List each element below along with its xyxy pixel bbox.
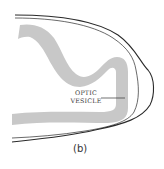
- optic-vesicle-diagram: OPTIC VESICLE (b): [0, 0, 164, 169]
- label-line-1: OPTIC: [70, 89, 102, 97]
- figure-caption: (b): [73, 143, 87, 154]
- optic-vesicle-label: OPTIC VESICLE: [70, 89, 102, 105]
- label-line-2: VESICLE: [70, 97, 102, 105]
- neural-tube-band: [12, 24, 128, 125]
